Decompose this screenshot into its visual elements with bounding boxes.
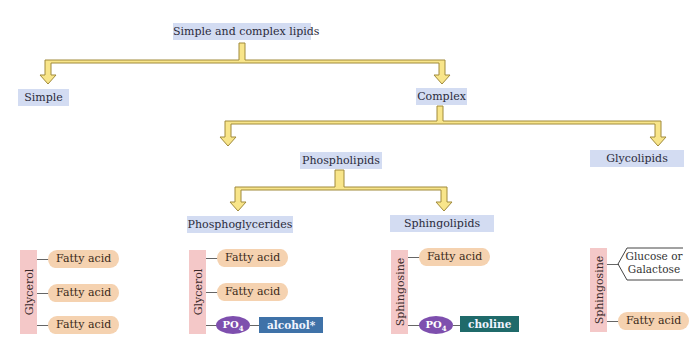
node-simple: Simple (18, 89, 69, 106)
fatty-acid: Fatty acid (48, 316, 119, 334)
node-glycolipids: Glycolipids (590, 150, 684, 167)
fatty-acid: Fatty acid (48, 284, 119, 302)
glycerol-backbone: Glycerol (189, 250, 206, 334)
sugar-label: Glucose or Galactose (624, 250, 684, 276)
fatty-acid: Fatty acid (48, 250, 119, 268)
backbone-label: Glycerol (191, 269, 204, 316)
backbone-label: Sphingosine (592, 256, 605, 325)
backbone-label: Sphingosine (393, 258, 406, 327)
fatty-acid: Fatty acid (419, 248, 490, 266)
node-phospholipids: Phospholipids (300, 152, 382, 169)
alcohol-head-group: alcohol* (259, 317, 323, 333)
node-sphingolipids: Sphingolipids (390, 215, 494, 232)
sphingosine-backbone: Sphingosine (590, 248, 607, 332)
node-complex: Complex (416, 88, 467, 105)
backbone-label: Glycerol (22, 269, 35, 316)
phosphate-group: PO4 (216, 316, 250, 334)
phosphate-group: PO4 (419, 316, 453, 334)
sphingosine-backbone: Sphingosine (391, 250, 408, 334)
node-simple-and-complex-lipids: Simple and complex lipids (173, 23, 311, 40)
node-phosphoglycerides: Phosphoglycerides (187, 216, 293, 233)
choline-head-group: choline (460, 316, 519, 332)
fatty-acid: Fatty acid (217, 283, 288, 301)
fatty-acid: Fatty acid (618, 312, 689, 330)
fatty-acid: Fatty acid (217, 249, 288, 267)
glycerol-backbone: Glycerol (20, 250, 37, 334)
